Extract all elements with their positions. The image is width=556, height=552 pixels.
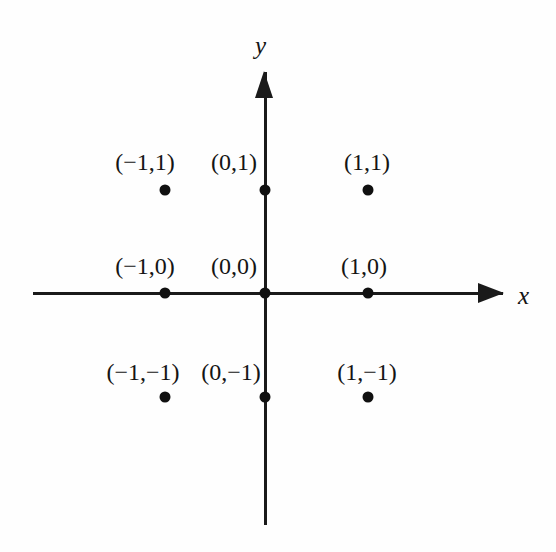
point-coordinate-label: (−1,0) <box>115 254 175 278</box>
point-marker-dot <box>160 185 171 196</box>
point-coordinate-label: (−1,1) <box>115 150 175 174</box>
y-axis-line <box>264 72 267 525</box>
x-axis-label: x <box>518 283 529 308</box>
point-marker-dot <box>260 288 271 299</box>
point-marker-dot <box>363 185 374 196</box>
coordinate-plane-figure: x y (−1,1)(0,1)(1,1)(−1,0)(0,0)(1,0)(−1,… <box>0 0 556 552</box>
point-coordinate-label: (1,1) <box>344 150 390 174</box>
y-axis-label: y <box>255 33 266 58</box>
point-coordinate-label: (0,1) <box>211 150 257 174</box>
point-marker-dot <box>363 392 374 403</box>
point-marker-dot <box>363 288 374 299</box>
point-marker-dot <box>260 392 271 403</box>
point-coordinate-label: (0,0) <box>211 254 257 278</box>
point-marker-dot <box>160 288 171 299</box>
point-coordinate-label: (0,−1) <box>201 360 261 384</box>
point-marker-dot <box>160 392 171 403</box>
point-coordinate-label: (−1,−1) <box>106 360 179 384</box>
point-marker-dot <box>260 185 271 196</box>
x-axis-arrowhead-icon <box>478 283 504 303</box>
y-axis-arrowhead-icon <box>255 71 273 98</box>
point-coordinate-label: (1,0) <box>341 254 387 278</box>
point-coordinate-label: (1,−1) <box>337 360 397 384</box>
